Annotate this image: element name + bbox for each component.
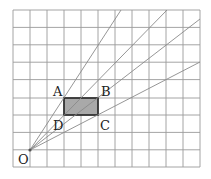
rectangle-abcd	[64, 98, 98, 115]
label-c: C	[100, 118, 110, 133]
label-o: O	[18, 152, 29, 167]
enlargement-diagram: A B C D O	[0, 0, 211, 179]
label-d: D	[53, 118, 63, 133]
label-b: B	[101, 84, 111, 99]
label-a: A	[52, 84, 63, 99]
centre-point-o	[28, 148, 31, 151]
